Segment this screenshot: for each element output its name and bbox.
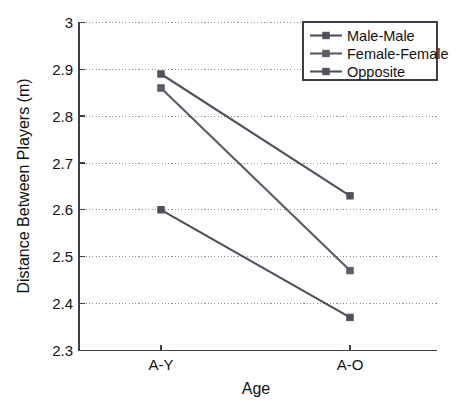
legend-label-opposite: Opposite (347, 64, 405, 80)
data-point-opposite-a-y (158, 71, 164, 77)
legend-marker-female-female (323, 50, 329, 56)
y-tick-label-2.9: 2.9 (52, 61, 73, 78)
legend-marker-opposite (323, 68, 329, 74)
chart-legend[interactable]: Male-Male Female-Female Opposite (303, 22, 449, 80)
y-tick-label-3.0: 3 (65, 14, 73, 31)
legend-marker-male-male (323, 32, 329, 38)
legend-label-male-male: Male-Male (347, 28, 415, 44)
x-tick-label-a-o: A-O (337, 356, 364, 373)
y-axis-title: Distance Between Players (m) (15, 78, 32, 293)
data-point-female-female-a-o (347, 267, 353, 273)
data-point-male-male-a-o (347, 314, 353, 320)
data-point-opposite-a-o (347, 193, 353, 199)
x-axis-title: Age (242, 380, 271, 397)
y-tick-label-2.4: 2.4 (52, 295, 73, 312)
y-tick-label-2.6: 2.6 (52, 201, 73, 218)
y-tick-label-2.5: 2.5 (52, 248, 73, 265)
line-chart: 3 2.9 2.8 2.7 2.6 2.5 2.4 2.3 A-Y A-O Ag… (0, 0, 456, 405)
y-tick-label-2.8: 2.8 (52, 108, 73, 125)
data-point-female-female-a-y (158, 85, 164, 91)
x-tick-label-a-y: A-Y (148, 356, 173, 373)
y-tick-label-2.3: 2.3 (52, 342, 73, 359)
data-point-male-male-a-y (158, 207, 164, 213)
legend-label-female-female: Female-Female (347, 46, 449, 62)
chart-figure: 3 2.9 2.8 2.7 2.6 2.5 2.4 2.3 A-Y A-O Ag… (0, 0, 456, 405)
y-tick-label-2.7: 2.7 (52, 155, 73, 172)
